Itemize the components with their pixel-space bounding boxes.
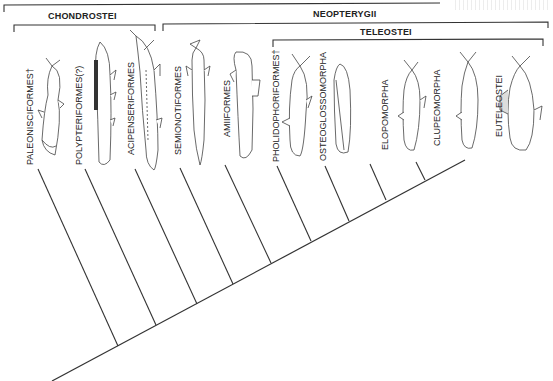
teleostei-label: TELEOSTEI [360, 27, 412, 37]
branch-amiiformes [225, 165, 271, 263]
chondrostei-bracket [14, 25, 155, 32]
taxon-label-acipenseriformes: ACIPENSERIFORMES [126, 62, 136, 155]
herring-fish-illustration [456, 52, 478, 148]
neopterygii-label: NEOPTERYGII [313, 9, 376, 19]
taxon-label-osteoglossomorpha: OSTEOGLOSSOMORPHA [318, 52, 328, 161]
branch-acipenseriformes [135, 169, 197, 304]
taxon-label-clupeomorpha: CLUPEOMORPHA [432, 69, 442, 146]
branch-paleonisciformes [38, 169, 118, 346]
pholidophorid-fish-illustration [282, 54, 312, 156]
cladogram-figure: CHONDROSTEI NEOPTERYGII TELEOSTEI PALEON… [0, 0, 553, 381]
paleoniscid-fish-illustration [38, 58, 64, 155]
branch-clupeomorpha [416, 162, 425, 180]
bichir-fish-illustration [94, 42, 116, 165]
taxon-label-elopomorpha: ELOPOMORPHA [380, 79, 390, 150]
cladogram-stem [52, 160, 465, 381]
tarpon-fish-illustration [398, 60, 426, 150]
gar-fish-illustration [186, 40, 210, 165]
bonytongue-fish-illustration [334, 64, 351, 153]
taxon-label-pholidophoriformes: PHOLIDOPHORIFORMES† [271, 49, 281, 162]
taxon-label-semionotiformes: SEMIONOTIFORMES [173, 66, 183, 155]
branch-elopomorpha [370, 164, 386, 200]
bowfin-fish-illustration [230, 52, 260, 158]
branch-pholidophoriformes [277, 166, 311, 241]
taxon-label-paleonisciformes: PALEONISCIFORMES† [25, 68, 35, 165]
branch-osteoglossomorpha [325, 166, 349, 221]
taxon-label-euteleostei: EUTELEOSTEI [494, 75, 504, 137]
perch-fish-illustration [500, 56, 542, 150]
neopterygii-bracket [163, 22, 548, 31]
chondrostei-label: CHONDROSTEI [48, 11, 117, 21]
teleostei-bracket [273, 39, 543, 47]
branch-semionotiformes [180, 168, 233, 284]
taxon-label-polypteriformes: POLYPTERIFORMES(?) [74, 66, 84, 165]
taxon-label-amiiformes: AMIIFORMES [222, 80, 232, 137]
